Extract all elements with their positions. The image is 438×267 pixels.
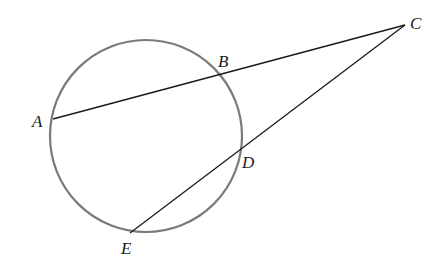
secant-ec bbox=[130, 25, 405, 233]
geometry-diagram: A B C D E bbox=[0, 0, 438, 267]
label-b: B bbox=[218, 52, 229, 71]
label-c: C bbox=[410, 14, 422, 33]
secant-ac bbox=[53, 25, 405, 119]
label-a: A bbox=[31, 112, 43, 131]
label-e: E bbox=[120, 239, 132, 258]
circle bbox=[50, 40, 242, 232]
label-d: D bbox=[241, 153, 255, 172]
